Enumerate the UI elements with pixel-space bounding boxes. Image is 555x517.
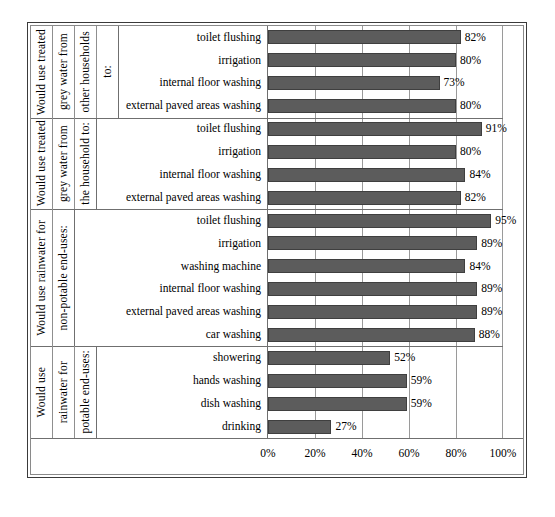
chart-row: toilet flushing82% <box>31 26 523 49</box>
category-label: internal floor washing <box>101 169 261 181</box>
x-axis-tick-label: 80% <box>445 448 466 460</box>
bar-container: 89% <box>268 232 523 255</box>
bar-value-label: 52% <box>394 352 415 364</box>
bar-value-label: 84% <box>469 169 490 181</box>
bar-container: 80% <box>268 49 523 72</box>
bar-value-label: 80% <box>460 146 481 158</box>
chart-row: car washing88% <box>31 324 523 347</box>
x-axis-tick-label: 60% <box>398 448 419 460</box>
bar-container: 59% <box>268 369 523 392</box>
bar-container: 27% <box>268 415 523 438</box>
category-label: irrigation <box>101 146 261 158</box>
bar-value-label: 89% <box>481 283 502 295</box>
bar-value-label: 89% <box>481 306 502 318</box>
category-label: external paved areas washing <box>101 192 261 204</box>
group-rows: toilet flushing95%irrigation89%washing m… <box>31 209 523 346</box>
chart-row: dish washing59% <box>31 392 523 415</box>
bar-container: 82% <box>268 186 523 209</box>
bar <box>268 214 491 228</box>
category-label: toilet flushing <box>101 32 261 44</box>
bar <box>268 397 407 411</box>
x-axis-tick-label: 20% <box>304 448 325 460</box>
group-rows: toilet flushing82%irrigation80%internal … <box>31 26 523 118</box>
x-axis-tick-label: 0% <box>260 448 275 460</box>
group-rows: toilet flushing91%irrigation80%internal … <box>31 118 523 210</box>
category-label: hands washing <box>101 375 261 387</box>
chart-row: irrigation89% <box>31 232 523 255</box>
chart-row: toilet flushing91% <box>31 118 523 141</box>
bar <box>268 99 456 113</box>
category-label: toilet flushing <box>101 215 261 227</box>
chart-group: Would use treatedgrey water fromthe hous… <box>31 118 523 210</box>
bar <box>268 145 456 159</box>
chart-row: external paved areas washing89% <box>31 301 523 324</box>
bar-container: 91% <box>268 118 523 141</box>
chart-row: irrigation80% <box>31 140 523 163</box>
bar-container: 52% <box>268 346 523 369</box>
bar-value-label: 88% <box>479 329 500 341</box>
group-rows: showering52%hands washing59%dish washing… <box>31 346 523 438</box>
chart-row: internal floor washing89% <box>31 278 523 301</box>
bar-chart: Would use treatedgrey water fromother ho… <box>31 26 523 474</box>
chart-row: toilet flushing95% <box>31 209 523 232</box>
bar-value-label: 84% <box>469 261 490 273</box>
plot-region: Would use treatedgrey water fromother ho… <box>31 26 523 438</box>
bar <box>268 236 477 250</box>
chart-row: internal floor washing84% <box>31 163 523 186</box>
category-label: toilet flushing <box>101 123 261 135</box>
bar-container: 80% <box>268 95 523 118</box>
bar <box>268 191 461 205</box>
category-label: washing machine <box>101 261 261 273</box>
chart-screenshot: Would use treatedgrey water fromother ho… <box>0 0 555 517</box>
bar-container: 59% <box>268 392 523 415</box>
category-label: showering <box>101 352 261 364</box>
bar <box>268 282 477 296</box>
chart-group: Would use treatedgrey water fromother ho… <box>31 26 523 118</box>
bar <box>268 328 475 342</box>
chart-row: internal floor washing73% <box>31 72 523 95</box>
bar-value-label: 91% <box>486 123 507 135</box>
bar-container: 73% <box>268 72 523 95</box>
bar-value-label: 27% <box>335 421 356 433</box>
x-axis: 0%20%40%60%80%100% <box>31 438 523 474</box>
chart-row: hands washing59% <box>31 369 523 392</box>
chart-row: showering52% <box>31 346 523 369</box>
bar-value-label: 95% <box>495 215 516 227</box>
bar-value-label: 82% <box>465 32 486 44</box>
bar <box>268 420 331 434</box>
x-axis-tick-label: 100% <box>490 448 517 460</box>
bar <box>268 351 390 365</box>
bar <box>268 374 407 388</box>
bar <box>268 122 482 136</box>
bar-container: 88% <box>268 324 523 347</box>
category-label: dish washing <box>101 398 261 410</box>
chart-row: washing machine84% <box>31 255 523 278</box>
chart-row: external paved areas washing80% <box>31 95 523 118</box>
bar-value-label: 59% <box>411 375 432 387</box>
bar-container: 84% <box>268 163 523 186</box>
chart-group: Would use rainwater fornon-potable end-u… <box>31 209 523 346</box>
category-label: internal floor washing <box>101 77 261 89</box>
chart-group: Would userainwater forpotable end-uses:s… <box>31 346 523 438</box>
bar-value-label: 59% <box>411 398 432 410</box>
chart-row: drinking27% <box>31 415 523 438</box>
bar <box>268 76 440 90</box>
bar-container: 89% <box>268 278 523 301</box>
bar-container: 95% <box>268 209 523 232</box>
bar <box>268 53 456 67</box>
bar <box>268 168 465 182</box>
category-label: external paved areas washing <box>101 100 261 112</box>
category-label: irrigation <box>101 55 261 67</box>
bar-container: 84% <box>268 255 523 278</box>
category-label: external paved areas washing <box>101 306 261 318</box>
bar-value-label: 82% <box>465 192 486 204</box>
category-label: internal floor washing <box>101 283 261 295</box>
x-axis-tick-label: 40% <box>351 448 372 460</box>
category-label: drinking <box>101 421 261 433</box>
category-label: irrigation <box>101 238 261 250</box>
chart-row: irrigation80% <box>31 49 523 72</box>
bar <box>268 259 465 273</box>
bar <box>268 305 477 319</box>
bar-container: 80% <box>268 140 523 163</box>
bar-container: 89% <box>268 301 523 324</box>
